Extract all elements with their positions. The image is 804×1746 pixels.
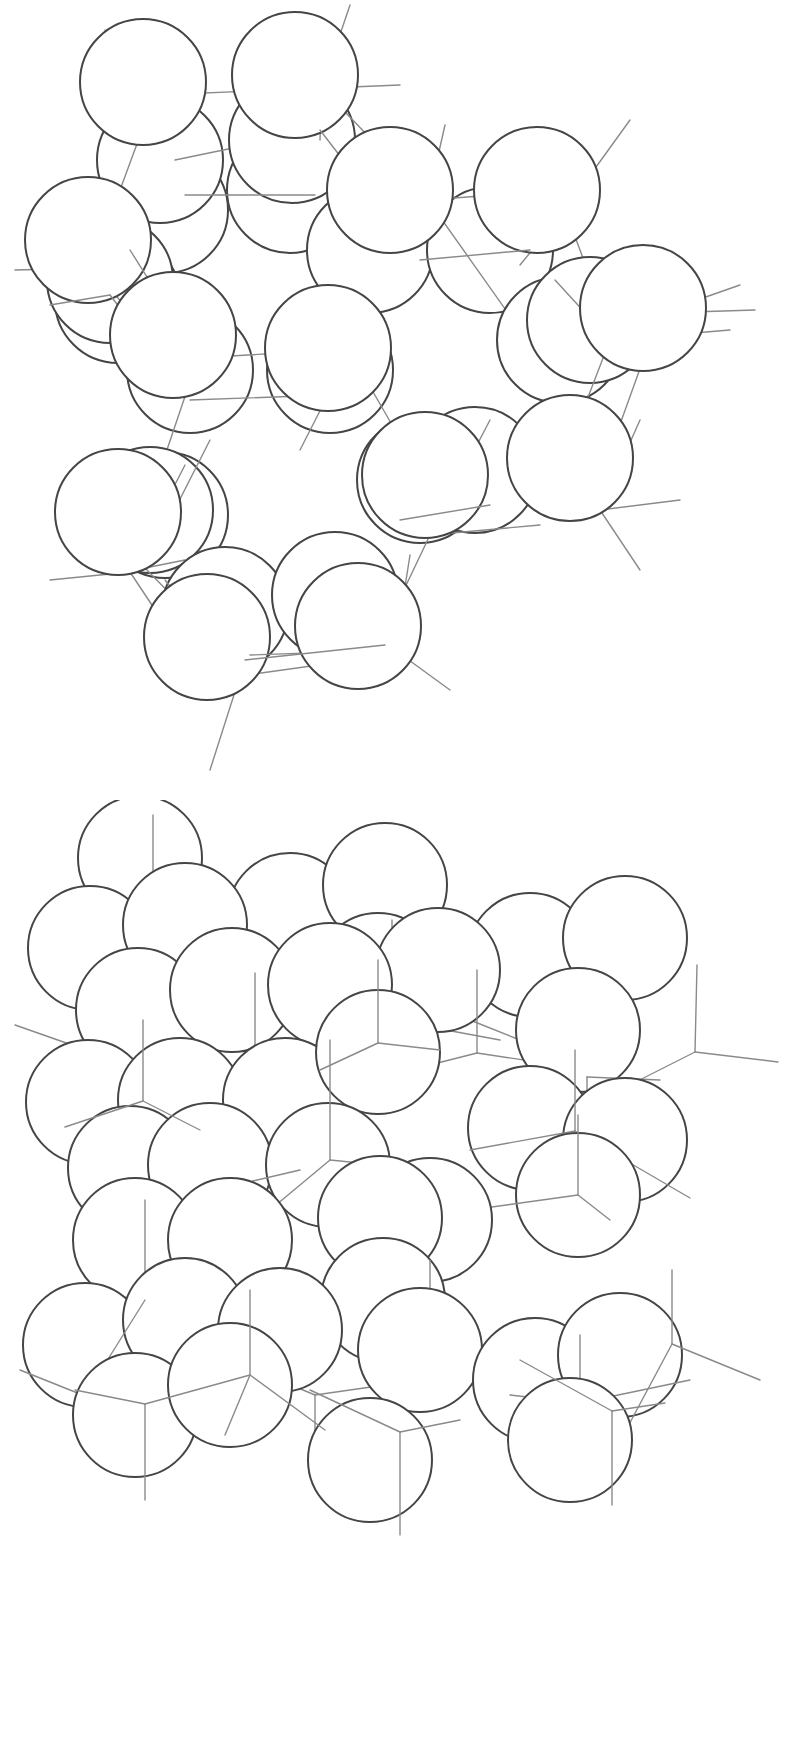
atom-circle: [25, 177, 151, 303]
atom-circle: [507, 395, 633, 521]
atom-circle: [110, 272, 236, 398]
atom-circle: [295, 563, 421, 689]
bond-line: [600, 510, 640, 570]
bottom-structure-drawing: [0, 800, 804, 1746]
atom-circle: [474, 127, 600, 253]
bond-line: [695, 965, 697, 1052]
atom-circle: [508, 1378, 632, 1502]
atom-circle: [80, 19, 206, 145]
crystal-structure-layer-view: [0, 800, 804, 1746]
bond-line: [672, 1344, 760, 1380]
atom-circle: [308, 1398, 432, 1522]
top-structure-drawing: [0, 0, 804, 800]
atom-circle: [358, 1288, 482, 1412]
crystal-structure-top-view: [0, 0, 804, 800]
atom-circle: [580, 245, 706, 371]
atom-circle: [362, 412, 488, 538]
atom-circle: [265, 285, 391, 411]
atom-circle: [55, 449, 181, 575]
atom-circle: [144, 574, 270, 700]
atom-circle: [327, 127, 453, 253]
bond-line: [695, 1052, 778, 1062]
atom-circle: [168, 1323, 292, 1447]
atom-circle: [232, 12, 358, 138]
